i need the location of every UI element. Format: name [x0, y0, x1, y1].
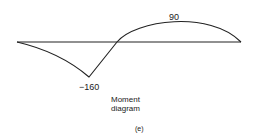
caption-line1: Moment [111, 96, 140, 104]
negative-peak-label: −160 [79, 83, 99, 92]
positive-moment-curve [117, 22, 241, 42]
caption-line2: diagram [111, 105, 140, 113]
positive-peak-label: 90 [169, 13, 179, 22]
moment-diagram-graphic [0, 0, 253, 136]
figure-label: (e) [135, 125, 144, 132]
negative-moment-curve [17, 42, 117, 77]
